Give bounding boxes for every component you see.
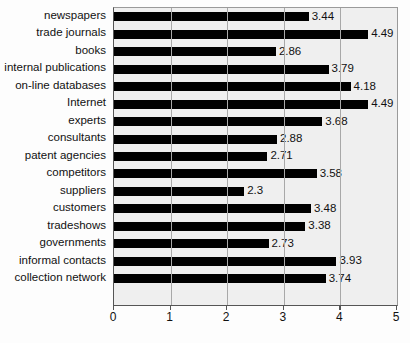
bar-value-label: 2.3 bbox=[247, 186, 263, 198]
bar-row: 4.18 bbox=[114, 78, 397, 95]
category-label: competitors bbox=[0, 164, 109, 181]
bar-row: 2.3 bbox=[114, 183, 397, 200]
gridline-2 bbox=[227, 8, 228, 305]
bar: 3.38 bbox=[114, 222, 305, 231]
gridline-1 bbox=[171, 8, 172, 305]
bar-value-label: 3.79 bbox=[332, 63, 354, 75]
bar-row: 3.58 bbox=[114, 165, 397, 182]
x-axis-tick-labels: 012345 bbox=[113, 311, 396, 329]
x-tick-label-2: 2 bbox=[223, 311, 230, 323]
bar-row: 3.44 bbox=[114, 8, 397, 25]
bar: 3.79 bbox=[114, 65, 329, 74]
plot-area: 3.444.492.863.794.184.493.682.882.713.58… bbox=[113, 7, 398, 306]
bar-value-label: 3.48 bbox=[314, 203, 336, 215]
bar-value-label: 3.58 bbox=[320, 168, 342, 180]
bar: 3.74 bbox=[114, 274, 326, 283]
bar-value-label: 4.49 bbox=[371, 98, 393, 110]
bar: 2.88 bbox=[114, 135, 277, 144]
bar-value-label: 3.44 bbox=[312, 11, 334, 23]
category-label: tradeshows bbox=[0, 217, 109, 234]
bar: 4.49 bbox=[114, 100, 368, 109]
category-label: customers bbox=[0, 199, 109, 216]
bar-row: 3.48 bbox=[114, 200, 397, 217]
x-tick-label-4: 4 bbox=[336, 311, 343, 323]
bar-row: 3.79 bbox=[114, 60, 397, 77]
bar-chart: newspaperstrade journalsbooksinternal pu… bbox=[0, 0, 410, 343]
bar: 3.44 bbox=[114, 12, 309, 21]
bar-row: 3.93 bbox=[114, 253, 397, 270]
bar: 2.3 bbox=[114, 187, 244, 196]
bar-value-label: 3.38 bbox=[308, 221, 330, 233]
x-tick-label-1: 1 bbox=[166, 311, 173, 323]
bar-row: 3.38 bbox=[114, 218, 397, 235]
x-tick-label-0: 0 bbox=[110, 311, 117, 323]
x-axis-tick-marks bbox=[113, 305, 396, 310]
category-label: internal publications bbox=[0, 59, 109, 76]
bar-value-label: 3.68 bbox=[325, 116, 347, 128]
bar: 2.71 bbox=[114, 152, 267, 161]
bar-value-label: 2.71 bbox=[270, 151, 292, 163]
x-tick-label-5: 5 bbox=[393, 311, 400, 323]
bar-row: 4.49 bbox=[114, 25, 397, 42]
bar: 4.18 bbox=[114, 82, 351, 91]
gridline-3 bbox=[284, 8, 285, 305]
category-label: Internet bbox=[0, 94, 109, 111]
bar: 3.93 bbox=[114, 257, 336, 266]
bar: 3.68 bbox=[114, 117, 322, 126]
bar-rows: 3.444.492.863.794.184.493.682.882.713.58… bbox=[114, 8, 397, 305]
bar-value-label: 3.93 bbox=[339, 256, 361, 268]
category-label: trade journals bbox=[0, 24, 109, 41]
category-label: patent agencies bbox=[0, 147, 109, 164]
bar: 3.48 bbox=[114, 204, 311, 213]
category-label: books bbox=[0, 42, 109, 59]
bar-row: 3.68 bbox=[114, 113, 397, 130]
gridline-4 bbox=[340, 8, 341, 305]
bar-value-label: 4.49 bbox=[371, 28, 393, 40]
bar-row: 2.71 bbox=[114, 148, 397, 165]
category-label: informal contacts bbox=[0, 252, 109, 269]
bar: 3.58 bbox=[114, 169, 317, 178]
category-label: collection network bbox=[0, 269, 109, 286]
x-tick-label-3: 3 bbox=[279, 311, 286, 323]
bar-row: 2.73 bbox=[114, 235, 397, 252]
bar: 4.49 bbox=[114, 30, 368, 39]
category-label: newspapers bbox=[0, 7, 109, 24]
bar-value-label: 4.18 bbox=[354, 81, 376, 93]
bar-row: 3.74 bbox=[114, 270, 397, 287]
category-label: governments bbox=[0, 234, 109, 251]
bar-row: 2.88 bbox=[114, 130, 397, 147]
bar-value-label: 2.73 bbox=[272, 238, 294, 250]
category-label: consultants bbox=[0, 129, 109, 146]
bar-row: 4.49 bbox=[114, 95, 397, 112]
category-label: suppliers bbox=[0, 182, 109, 199]
category-label: on-line databases bbox=[0, 77, 109, 94]
bar-row: 2.86 bbox=[114, 43, 397, 60]
bar: 2.73 bbox=[114, 239, 269, 248]
category-axis-labels: newspaperstrade journalsbooksinternal pu… bbox=[0, 7, 109, 304]
bar-value-label: 2.86 bbox=[279, 46, 301, 58]
category-label: experts bbox=[0, 112, 109, 129]
bar: 2.86 bbox=[114, 47, 276, 56]
